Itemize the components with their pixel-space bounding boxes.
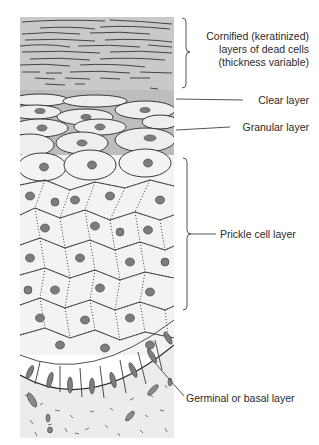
label-clear-layer: Clear layer [200, 94, 309, 107]
label-germinal-basal-layer: Germinal or basal layer [186, 392, 295, 405]
cornified-bracket [182, 18, 190, 88]
label-cornified-line1: Cornified (keratinized) [190, 30, 309, 43]
cornified-layer [20, 17, 174, 97]
label-granular-layer: Granular layer [200, 121, 309, 134]
label-cornified: Cornified (keratinized) layers of dead c… [190, 30, 309, 69]
prickle-layer [20, 155, 174, 355]
label-cornified-line2: layers of dead cells [190, 43, 309, 56]
prickle-bracket [183, 158, 191, 310]
label-prickle-cell-layer: Prickle cell layer [220, 228, 296, 241]
label-cornified-line3: (thickness variable) [190, 56, 309, 69]
granular-cells [6, 94, 178, 156]
